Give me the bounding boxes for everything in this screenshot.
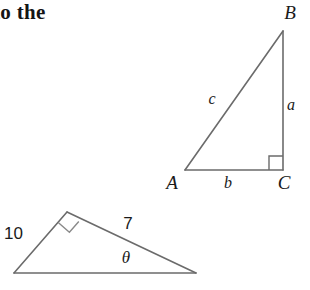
vertex-label-b: B	[284, 2, 296, 23]
figure-canvas: to the A B C a b c 10 7 θ	[0, 0, 310, 290]
vertex-label-a: A	[164, 172, 178, 193]
right-angle-marker-apex	[59, 222, 79, 233]
side-c-line	[185, 31, 283, 170]
side-label-10: 10	[4, 224, 23, 243]
triangle-theta: 10 7 θ	[4, 212, 196, 273]
side-label-7: 7	[123, 214, 132, 233]
angle-label-theta: θ	[122, 248, 130, 267]
side-label-a: a	[287, 96, 295, 113]
vertex-label-c: C	[278, 172, 291, 193]
right-angle-marker-c	[269, 156, 283, 170]
geometry-diagram: A B C a b c 10 7 θ	[0, 0, 310, 290]
side-label-b: b	[224, 174, 232, 191]
side-label-c: c	[208, 90, 215, 107]
triangle-abc: A B C a b c	[164, 2, 296, 193]
